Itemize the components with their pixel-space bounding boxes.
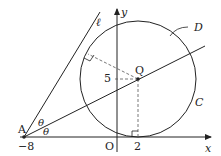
- dashed-q-to-tangent: [88, 54, 138, 79]
- x-axis-label: x: [205, 142, 212, 155]
- q-x-value-label: 2: [134, 140, 141, 153]
- theta-lower-label: θ: [43, 126, 49, 137]
- q-y-value-label: 5: [104, 72, 111, 85]
- coordinate-diagram: y x O A −8 Q 5 2 ℓ D C θ θ: [0, 0, 221, 156]
- right-angle-mark-axis: [132, 131, 138, 137]
- region-d-label: D: [193, 21, 203, 34]
- origin-label: O: [105, 140, 114, 153]
- point-q: [136, 77, 140, 81]
- circle-c-label: C: [195, 96, 204, 109]
- a-coordinate-label: −8: [18, 140, 34, 153]
- region-d-pointer: [170, 27, 188, 36]
- point-a-label: A: [17, 123, 27, 136]
- point-q-label: Q: [135, 64, 144, 77]
- y-axis-label: y: [120, 6, 128, 19]
- line-l-label: ℓ: [96, 16, 101, 29]
